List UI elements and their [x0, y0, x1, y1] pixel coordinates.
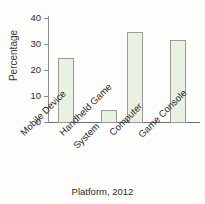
y-tick-label: 30 — [30, 39, 41, 49]
y-tick-mark — [44, 18, 49, 19]
y-tick-mark — [44, 44, 49, 45]
x-axis-title: Platform, 2012 — [0, 186, 205, 197]
bar-chart: Percentage 0 10 20 30 40 — [0, 0, 205, 204]
y-tick-label: 10 — [30, 91, 41, 101]
y-tick-label: 40 — [30, 13, 41, 23]
y-tick-mark — [44, 96, 49, 97]
y-tick-mark — [44, 70, 49, 71]
y-tick-mark — [44, 122, 49, 123]
plot-area: 0 10 20 30 40 — [48, 16, 200, 124]
y-axis-title: Percentage — [8, 16, 19, 96]
y-tick-label: 20 — [30, 65, 41, 75]
